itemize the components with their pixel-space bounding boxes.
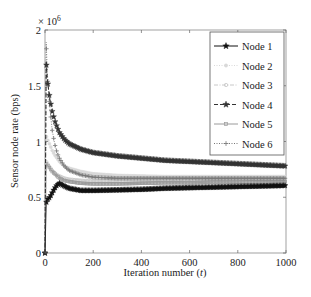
legend-label: Node 5 bbox=[242, 119, 273, 130]
legend: Node 1Node 2Node 3Node 4Node 5Node 6 bbox=[210, 32, 284, 155]
x-axis-label: Iteration number (t) bbox=[124, 267, 207, 279]
chart: 0200400600800100000.511.52 × 106 Sensor … bbox=[0, 0, 311, 297]
y-multiplier: × 106 bbox=[38, 14, 61, 27]
y-tick-label: 0.5 bbox=[28, 192, 41, 203]
legend-label: Node 4 bbox=[242, 100, 273, 111]
x-tick-label: 1000 bbox=[276, 257, 297, 268]
legend-label: Node 6 bbox=[242, 139, 273, 150]
data-point bbox=[49, 146, 52, 149]
y-tick-label: 1.5 bbox=[28, 81, 41, 92]
y-tick-label: 0 bbox=[36, 248, 41, 259]
legend-label: Node 3 bbox=[242, 80, 273, 91]
legend-label: Node 2 bbox=[242, 61, 273, 72]
y-axis-label: Sensor node rate (bps) bbox=[9, 93, 21, 188]
legend-marker bbox=[224, 64, 227, 67]
x-tick-label: 200 bbox=[85, 257, 101, 268]
y-tick-label: 1 bbox=[36, 137, 41, 148]
data-point bbox=[48, 142, 51, 145]
x-tick-label: 0 bbox=[42, 257, 47, 268]
legend-label: Node 1 bbox=[242, 41, 273, 52]
x-tick-label: 800 bbox=[230, 257, 246, 268]
